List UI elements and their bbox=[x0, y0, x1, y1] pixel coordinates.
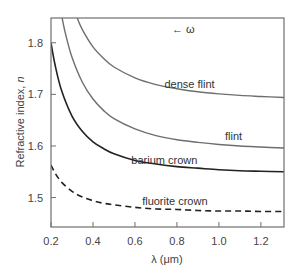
curve-labels: dense flintflintbarium crownfluorite cro… bbox=[131, 78, 242, 207]
barium-crown-label: barium crown bbox=[131, 154, 197, 166]
dense-flint-label: dense flint bbox=[164, 78, 214, 90]
y-tick-label: 1.8 bbox=[28, 37, 43, 49]
y-axis-ticks: 1.51.61.71.8 bbox=[28, 37, 56, 204]
x-tick-label: 1.2 bbox=[253, 235, 268, 247]
x-tick-label: 1.0 bbox=[211, 235, 226, 247]
x-tick-label: 0.2 bbox=[43, 235, 58, 247]
x-axis-title: λ (μm) bbox=[151, 253, 182, 265]
x-tick-label: 0.8 bbox=[169, 235, 184, 247]
fluorite-crown-label: fluorite crown bbox=[142, 195, 207, 207]
y-tick-label: 1.7 bbox=[28, 88, 43, 100]
x-tick-label: 0.4 bbox=[85, 235, 100, 247]
flint-label: flint bbox=[225, 130, 242, 142]
x-tick-label: 0.6 bbox=[127, 235, 142, 247]
barium-crown-curve bbox=[51, 43, 284, 172]
curves-group bbox=[51, 18, 284, 212]
omega-annotation: ← ω bbox=[172, 23, 195, 35]
y-tick-label: 1.6 bbox=[28, 140, 43, 152]
dispersion-chart: 0.20.40.60.81.01.2 1.51.61.71.8 dense fl… bbox=[0, 0, 298, 274]
y-axis-title: Refractive index, n bbox=[14, 76, 26, 167]
x-axis-ticks: 0.20.40.60.81.01.2 bbox=[43, 222, 268, 247]
y-tick-label: 1.5 bbox=[28, 192, 43, 204]
